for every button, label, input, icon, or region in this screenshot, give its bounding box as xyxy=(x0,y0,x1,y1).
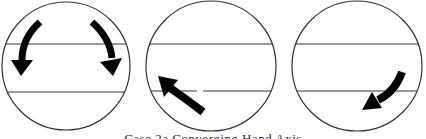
figure-diagram xyxy=(0,0,426,139)
circle-outline xyxy=(292,1,422,131)
curved-arrow-up-left-icon xyxy=(158,76,203,112)
curved-arrow-down-left-icon xyxy=(11,22,40,76)
curved-arrow-down-right-icon xyxy=(92,22,122,76)
panel-3 xyxy=(290,1,426,131)
figure-caption: Case 2a Converging Hand Axis xyxy=(0,131,426,139)
panel-1 xyxy=(0,2,140,130)
circle-outline xyxy=(146,1,276,131)
panel-2 xyxy=(140,1,285,131)
